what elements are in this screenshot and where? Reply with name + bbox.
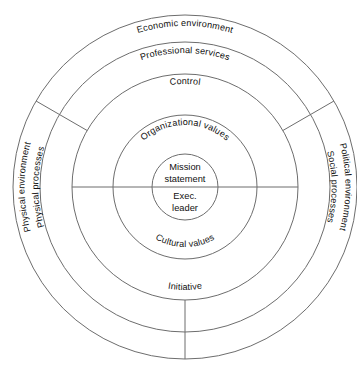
core-mission-line-1: Mission — [169, 162, 201, 172]
ring-2-right-label: Social processes — [325, 150, 340, 225]
ring-4-top-label: Organizational values — [138, 117, 231, 143]
ring-1-right-label: Political environment — [338, 142, 354, 232]
ring-1-left-label: Physical environment — [16, 140, 32, 233]
ring-4-bottom-label: Cultural values — [154, 232, 216, 249]
concentric-circle-diagram: Economic environment Professional servic… — [0, 0, 357, 368]
core-mission-line-2: statement — [165, 174, 206, 184]
core-exec-line-2: leader — [172, 203, 198, 213]
ring-1-top-label: Economic environment — [136, 18, 235, 35]
radial-divider-upper-left — [36, 101, 87, 131]
radial-divider-upper-right — [283, 101, 334, 131]
ring-3-top-label: Control — [169, 76, 201, 87]
ring-3-bottom-label: Initiative — [167, 281, 202, 292]
ring-2-left-label: Physical processes — [30, 145, 46, 229]
diagram-root: Economic environment Professional servic… — [0, 0, 357, 368]
core-exec-line-1: Exec. — [173, 191, 196, 201]
ring-2-top-label: Professional services — [139, 45, 232, 62]
